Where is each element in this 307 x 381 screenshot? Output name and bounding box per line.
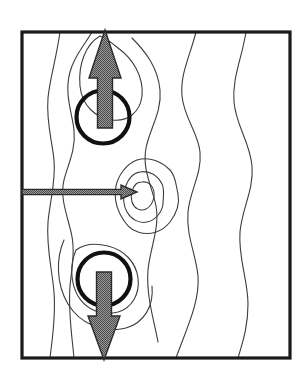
figure-root bbox=[0, 0, 307, 381]
contour-diagram bbox=[0, 0, 307, 381]
